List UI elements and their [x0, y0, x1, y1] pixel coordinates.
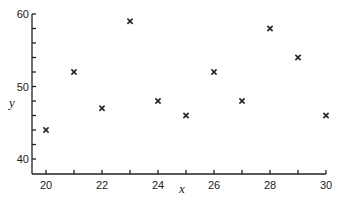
x-marker-icon — [127, 19, 132, 24]
x-marker-icon — [183, 113, 188, 118]
x-marker-icon — [155, 98, 160, 103]
x-marker-icon — [43, 127, 48, 132]
ticks: 202224262830405060 — [17, 8, 332, 191]
y-tick-label: 50 — [17, 81, 29, 93]
x-marker-icon — [323, 113, 328, 118]
y-tick-label: 60 — [17, 8, 29, 20]
scatter-chart: 202224262830405060 x y — [0, 0, 344, 201]
axes — [32, 14, 326, 174]
y-axis-label: y — [7, 95, 15, 110]
x-tick-label: 20 — [40, 179, 52, 191]
x-tick-label: 22 — [96, 179, 108, 191]
x-marker-icon — [267, 26, 272, 31]
x-axis-label: x — [178, 181, 185, 196]
x-tick-label: 30 — [320, 179, 332, 191]
data-points — [43, 19, 328, 133]
x-tick-label: 26 — [208, 179, 220, 191]
x-marker-icon — [239, 98, 244, 103]
y-tick-label: 40 — [17, 153, 29, 165]
x-tick-label: 28 — [264, 179, 276, 191]
plot-area: 202224262830405060 x y — [0, 0, 344, 201]
x-marker-icon — [71, 69, 76, 74]
x-marker-icon — [99, 106, 104, 111]
x-tick-label: 24 — [152, 179, 164, 191]
x-marker-icon — [295, 55, 300, 60]
x-marker-icon — [211, 69, 216, 74]
